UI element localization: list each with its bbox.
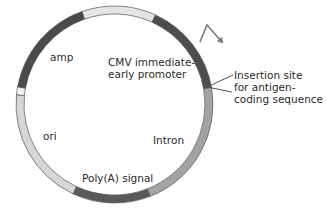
segment-amp (18, 12, 85, 89)
segment-polya-signal (73, 187, 150, 203)
segment-ori (16, 95, 76, 194)
segment-top-light (82, 6, 156, 22)
label-insertion-site: Insertion site for antigen- coding seque… (234, 69, 323, 105)
label-polya-signal: Poly(A) signal (82, 172, 153, 184)
plasmid-ring (0, 0, 327, 213)
label-cmv-promoter: CMV immediate- early promoter (108, 56, 195, 80)
label-intron: Intron (153, 134, 184, 146)
promoter-direction-arrow-icon (200, 25, 222, 42)
label-amp: amp (50, 51, 73, 63)
label-ori: ori (43, 130, 57, 142)
plasmid-diagram: amp CMV immediate- early promoter Insert… (0, 0, 327, 213)
